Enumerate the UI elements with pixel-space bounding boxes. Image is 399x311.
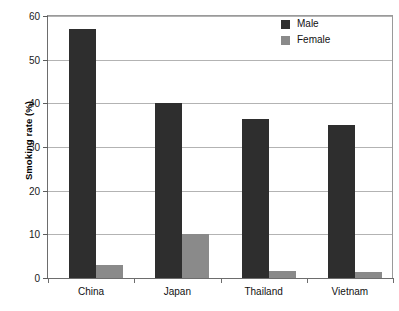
y-tick-label: 40 [29, 98, 40, 109]
female-swatch-icon [281, 36, 290, 45]
bar-china-female[interactable] [96, 265, 123, 278]
y-tick-label: 50 [29, 54, 40, 65]
y-tick-mark [43, 234, 48, 235]
plot-right-edge [392, 15, 393, 278]
y-gridline [48, 60, 393, 61]
legend-label-male: Male [297, 19, 319, 29]
bar-thailand-male[interactable] [242, 119, 269, 278]
y-tick-label: 20 [29, 185, 40, 196]
chart-legend: Male Female [281, 19, 330, 45]
x-tick-mark [221, 278, 222, 283]
y-tick-mark [43, 191, 48, 192]
x-tick-mark [393, 278, 394, 283]
y-tick-mark [43, 147, 48, 148]
legend-item-female[interactable]: Female [281, 35, 330, 45]
bar-japan-male[interactable] [155, 103, 182, 278]
bar-china-male[interactable] [69, 29, 96, 278]
x-axis-label-china: China [78, 286, 104, 297]
bar-japan-female[interactable] [182, 234, 209, 278]
x-axis-label-japan: Japan [164, 286, 191, 297]
bar-thailand-female[interactable] [269, 271, 296, 278]
y-gridline [48, 16, 393, 17]
x-tick-mark [134, 278, 135, 283]
y-tick-mark [43, 103, 48, 104]
smoking-rate-bar-chart: Smoking rate (%) 0102030405060ChinaJapan… [0, 0, 399, 311]
y-tick-label: 0 [34, 273, 40, 284]
y-tick-mark [43, 16, 48, 17]
y-tick-label: 10 [29, 229, 40, 240]
x-axis-label-thailand: Thailand [244, 286, 282, 297]
x-tick-mark [307, 278, 308, 283]
legend-label-female: Female [297, 35, 330, 45]
plot-area: 0102030405060ChinaJapanThailandVietnam [47, 15, 393, 279]
bar-vietnam-male[interactable] [328, 125, 355, 278]
x-axis-label-vietnam: Vietnam [332, 286, 369, 297]
bar-vietnam-female[interactable] [355, 272, 382, 278]
legend-item-male[interactable]: Male [281, 19, 330, 29]
y-tick-label: 30 [29, 142, 40, 153]
y-gridline [48, 103, 393, 104]
y-tick-label: 60 [29, 11, 40, 22]
y-tick-mark [43, 60, 48, 61]
x-tick-mark [48, 278, 49, 283]
male-swatch-icon [281, 20, 290, 29]
